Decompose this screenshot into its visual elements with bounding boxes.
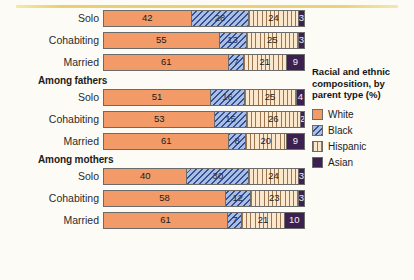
segment-value: 8	[234, 136, 239, 146]
segment-value: 58	[159, 193, 170, 203]
chart-row: Married6172110	[0, 211, 310, 229]
bar-segment-black: 28	[191, 11, 249, 26]
segment-value: 25	[267, 35, 278, 45]
bar-segment-white: 40	[104, 169, 186, 184]
bar-segment-white: 61	[104, 134, 228, 149]
segment-value: 3	[299, 193, 304, 203]
segment-value: 3	[299, 35, 304, 45]
segment-value: 26	[268, 114, 279, 124]
chart-group: Solo4228243Cohabiting5513253Married61721…	[0, 9, 310, 71]
chart-row: Cohabiting5812233	[0, 189, 310, 207]
stacked-bar: 617219	[103, 54, 305, 71]
bar-segment-black: 16	[210, 90, 243, 105]
bar-segment-asian: 10	[284, 213, 304, 228]
chart-groups: Solo4228243Cohabiting5513253Married61721…	[0, 9, 310, 229]
bar-segment-hispanic: 24	[248, 11, 297, 26]
segment-value: 3	[299, 13, 304, 23]
legend-label: White	[328, 109, 354, 120]
bar-segment-white: 55	[104, 33, 219, 48]
chart-group: Among fathersSolo5116254Cohabiting531526…	[0, 75, 310, 150]
segment-value: 30	[213, 171, 224, 181]
bar-segment-hispanic: 26	[246, 112, 300, 127]
segment-value: 10	[289, 215, 300, 225]
segment-value: 4	[298, 92, 303, 102]
chart-row: Solo4030243	[0, 167, 310, 185]
bar-segment-white: 61	[104, 55, 228, 70]
stacked-bar: 4228243	[103, 10, 305, 27]
row-label: Cohabiting	[0, 189, 103, 207]
segment-value: 9	[293, 57, 298, 67]
chart-row: Married617219	[0, 53, 310, 71]
bar-segment-hispanic: 25	[244, 90, 296, 105]
row-label: Married	[0, 132, 103, 150]
row-label: Cohabiting	[0, 31, 103, 49]
bar-segment-hispanic: 21	[243, 55, 286, 70]
group-heading: Among mothers	[38, 154, 310, 166]
segment-value: 20	[260, 136, 271, 146]
legend-label: Black	[328, 125, 352, 136]
segment-value: 55	[156, 35, 167, 45]
segment-value: 61	[161, 57, 172, 67]
chart-legend: Racial and ethnic composition, by parent…	[312, 66, 412, 173]
bar-segment-asian: 3	[298, 33, 304, 48]
bar-segment-white: 51	[104, 90, 210, 105]
stacked-bar: 5513253	[103, 32, 305, 49]
legend-label: Hispanic	[328, 141, 366, 152]
group-heading: Among fathers	[38, 75, 310, 87]
row-label: Solo	[0, 88, 103, 106]
stacked-bar: 4030243	[103, 168, 305, 185]
legend-swatch-asian-icon	[312, 157, 323, 168]
segment-value: 42	[142, 13, 153, 23]
legend-title: Racial and ethnic composition, by parent…	[312, 66, 412, 101]
segment-value: 24	[268, 171, 279, 181]
bar-segment-asian: 2	[300, 112, 304, 127]
segment-value: 3	[299, 171, 304, 181]
stacked-bar-chart: Solo4228243Cohabiting5513253Married61721…	[0, 9, 310, 280]
stacked-bar: 5812233	[103, 190, 305, 207]
segment-value: 40	[140, 171, 151, 181]
bar-segment-hispanic: 23	[250, 191, 298, 206]
bar-segment-hispanic: 20	[245, 134, 286, 149]
bar-segment-hispanic: 24	[248, 169, 297, 184]
row-label: Solo	[0, 167, 103, 185]
stacked-bar: 5315262	[103, 111, 305, 128]
bar-segment-asian: 9	[286, 134, 304, 149]
bar-segment-black: 15	[214, 112, 245, 127]
segment-value: 61	[161, 136, 172, 146]
segment-value: 16	[222, 92, 233, 102]
legend-item-white: White	[312, 109, 412, 120]
chart-row: Cohabiting5315262	[0, 110, 310, 128]
row-label: Married	[0, 53, 103, 71]
chart-row: Solo4228243	[0, 9, 310, 27]
chart-group: Among mothersSolo4030243Cohabiting581223…	[0, 154, 310, 229]
segment-value: 53	[154, 114, 165, 124]
bar-segment-black: 13	[219, 33, 246, 48]
legend-item-asian: Asian	[312, 157, 412, 168]
bar-segment-hispanic: 25	[246, 33, 298, 48]
segment-value: 7	[232, 215, 237, 225]
segment-value: 15	[225, 114, 236, 124]
segment-value: 51	[152, 92, 163, 102]
legend-swatch-black-icon	[312, 125, 323, 136]
bar-segment-black: 30	[186, 169, 248, 184]
bar-segment-black: 7	[227, 213, 241, 228]
segment-value: 28	[215, 13, 226, 23]
bar-segment-white: 42	[104, 11, 191, 26]
bar-segment-asian: 3	[298, 169, 304, 184]
bar-segment-asian: 3	[298, 191, 304, 206]
row-label: Cohabiting	[0, 110, 103, 128]
bar-segment-black: 12	[225, 191, 250, 206]
segment-value: 12	[233, 193, 244, 203]
chart-row: Married618209	[0, 132, 310, 150]
segment-value: 9	[293, 136, 298, 146]
segment-value: 21	[258, 215, 269, 225]
row-label: Solo	[0, 9, 103, 27]
segment-value: 7	[233, 57, 238, 67]
legend-item-hispanic: Hispanic	[312, 141, 412, 152]
segment-value: 21	[259, 57, 270, 67]
bar-segment-white: 58	[104, 191, 225, 206]
legend-items: WhiteBlackHispanicAsian	[312, 109, 412, 168]
bar-segment-white: 61	[104, 213, 227, 228]
bar-segment-black: 7	[228, 55, 242, 70]
stacked-bar: 618209	[103, 133, 305, 150]
